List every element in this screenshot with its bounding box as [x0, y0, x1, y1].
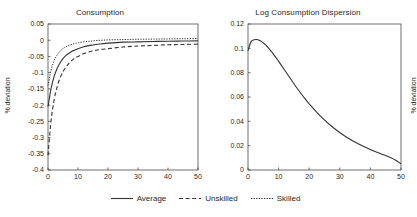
legend-label: Unskilled: [205, 194, 237, 203]
legend-swatch-dotted: [251, 195, 273, 202]
chart-legend: AverageUnskilledSkilled: [0, 190, 411, 217]
x-tick-label: 0: [46, 173, 50, 180]
y-tick-label: -0.15: [28, 85, 44, 92]
x-tick-label: 30: [134, 173, 142, 180]
y-tick-label: 0: [240, 166, 244, 173]
y-tick-label: -0.2: [32, 102, 44, 109]
y-tick-label: -0.4: [32, 166, 44, 173]
x-tick-label: 10: [275, 173, 283, 180]
x-tick-label: 50: [194, 173, 202, 180]
plot-area-right: 00.020.040.060.080.10.1201020304050: [205, 0, 411, 190]
series-line-skilled: [48, 39, 198, 86]
x-tick-label: 40: [164, 173, 172, 180]
x-tick-label: 0: [246, 173, 250, 180]
y-tick-label: 0.08: [230, 69, 244, 76]
x-tick-label: 40: [367, 173, 375, 180]
y-tick-label: 0.02: [230, 142, 244, 149]
y-tick-label: -0.25: [28, 118, 44, 125]
legend-entry-average[interactable]: Average: [111, 194, 167, 203]
legend-row: AverageUnskilledSkilled: [0, 194, 411, 203]
x-tick-label: 30: [336, 173, 344, 180]
legend-entry-skilled[interactable]: Skilled: [251, 194, 301, 203]
series-line-average: [48, 41, 198, 107]
x-tick-label: 20: [305, 173, 313, 180]
y-tick-label: -0.05: [28, 53, 44, 60]
series-line-average: [248, 39, 401, 163]
x-tick-label: 50: [397, 173, 405, 180]
legend-swatch-dashed: [179, 195, 201, 202]
y-tick-label: -0.1: [32, 69, 44, 76]
x-tick-label: 20: [104, 173, 112, 180]
y-tick-label: 0.04: [230, 118, 244, 125]
y-tick-label: 0: [40, 37, 44, 44]
plot-area-left: -0.4-0.35-0.3-0.25-0.2-0.15-0.1-0.0500.0…: [0, 0, 205, 190]
series-line-unskilled: [48, 44, 198, 155]
y-tick-label: 0.06: [230, 93, 244, 100]
legend-swatch-solid: [111, 195, 133, 202]
y-tick-label: -0.35: [28, 150, 44, 157]
chart-panel-consumption: Consumption % deviation -0.4-0.35-0.3-0.…: [0, 0, 205, 190]
chart-panel-log-consumption-dispersion: Log Consumption Dispersion % deviation 0…: [205, 0, 411, 190]
y-tick-label: -0.3: [32, 134, 44, 141]
y-tick-label: 0.1: [234, 45, 244, 52]
legend-entry-unskilled[interactable]: Unskilled: [179, 194, 237, 203]
legend-label: Average: [137, 194, 167, 203]
y-tick-label: 0.12: [230, 20, 244, 27]
y-tick-label: 0.05: [30, 20, 44, 27]
legend-label: Skilled: [277, 194, 301, 203]
x-tick-label: 10: [74, 173, 82, 180]
